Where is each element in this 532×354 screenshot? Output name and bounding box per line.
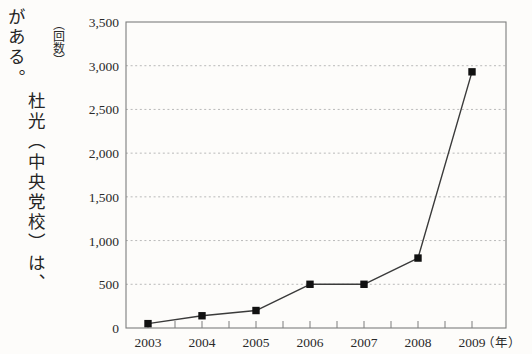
scanned-page: がある。 杜光（中央党校）は、 （回数） （年） 05001,0001,5002… [0, 0, 532, 354]
x-tick-label: 2005 [243, 335, 270, 350]
data-point-marker [198, 312, 205, 319]
x-tick-label: 2006 [297, 335, 324, 350]
x-tick-mark-group [148, 321, 472, 328]
line-chart: （回数） （年） 05001,0001,5002,0002,5003,0003,… [44, 0, 532, 354]
vertical-body-text: がある。 杜光（中央党校）は、 [0, 0, 44, 354]
y-tick-label: 2,000 [89, 146, 120, 161]
data-point-marker [468, 68, 475, 75]
plot-border [126, 22, 506, 328]
y-tick-label: 3,000 [89, 59, 120, 74]
data-point-marker [414, 254, 421, 261]
data-marker-group [144, 68, 475, 327]
x-tick-label: 2003 [135, 335, 162, 350]
x-axis-unit-label: （年） [482, 332, 521, 351]
x-tick-label: 2008 [405, 335, 432, 350]
y-tick-label: 2,500 [89, 102, 120, 117]
data-point-marker [252, 307, 259, 314]
data-point-marker [144, 320, 151, 327]
chart-canvas: 05001,0001,5002,0002,5003,0003,500 20032… [44, 0, 532, 354]
data-point-marker [306, 281, 313, 288]
y-tick-label: 0 [112, 321, 119, 336]
body-text-column-1: がある。 [4, 8, 26, 348]
data-point-marker [360, 281, 367, 288]
body-text-column-2: 杜光（中央党校）は、 [24, 92, 46, 348]
y-tick-label: 1,500 [89, 190, 120, 205]
x-tick-label-group: 2003200420052006200720082009 [135, 335, 486, 350]
y-tick-label: 3,500 [89, 15, 120, 30]
x-tick-label: 2007 [351, 335, 378, 350]
y-tick-label-group: 05001,0001,5002,0002,5003,0003,500 [89, 15, 120, 336]
y-tick-label: 500 [99, 277, 120, 292]
x-tick-label: 2004 [189, 335, 216, 350]
y-axis-unit-label: （回数） [50, 18, 63, 66]
gridline-group [126, 66, 506, 285]
plot-frame [126, 22, 506, 328]
y-tick-label: 1,000 [89, 234, 120, 249]
